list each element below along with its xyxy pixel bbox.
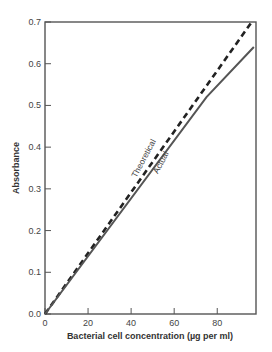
x-tick-label: 0 xyxy=(42,318,47,328)
x-tick-label: 40 xyxy=(126,318,136,328)
y-axis-title: Absorbance xyxy=(11,142,21,194)
annotation-actual: Actual xyxy=(151,150,171,176)
y-tick-label: 0.5 xyxy=(28,100,41,110)
x-tick-label: 60 xyxy=(169,318,179,328)
series-theoretical-line xyxy=(45,22,252,314)
x-tick-label: 80 xyxy=(212,318,222,328)
y-tick-label: 0.1 xyxy=(28,267,41,277)
series-lines xyxy=(45,22,254,314)
y-tick-label: 0.3 xyxy=(28,184,41,194)
y-tick-label: 0.6 xyxy=(28,59,41,69)
y-axis-ticks: 0.00.10.20.30.40.50.60.7 xyxy=(28,17,51,319)
x-axis-title: Bacterial cell concentration (µg per ml) xyxy=(67,331,233,341)
x-tick-label: 20 xyxy=(83,318,93,328)
y-tick-label: 0.4 xyxy=(28,142,41,152)
x-axis-ticks: 020406080 xyxy=(42,308,222,328)
y-tick-label: 0.2 xyxy=(28,226,41,236)
y-tick-label: 0.7 xyxy=(28,17,41,27)
y-tick-label: 0.0 xyxy=(28,309,41,319)
series-actual-line xyxy=(45,47,254,314)
absorbance-chart: 0.00.10.20.30.40.50.60.7 020406080 Theor… xyxy=(0,0,272,352)
